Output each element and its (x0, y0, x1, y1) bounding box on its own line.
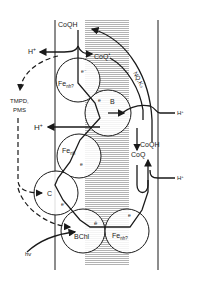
label-tmpd: TMPD, (10, 98, 29, 104)
label-coq-right: CoQ (131, 151, 146, 159)
h-plus-right-lower-path (150, 170, 175, 178)
electron-transport-diagram: CoQH CoQ• H+ TMPD, PMS H+ NQ,K₃ H+ CoQH … (0, 0, 197, 282)
label-b: B (110, 98, 115, 105)
label-coqh-top: CoQH (58, 21, 77, 29)
label-e-bottom: e (128, 212, 131, 218)
coq-u-loop (137, 160, 148, 193)
label-bchl: BChl (74, 233, 90, 240)
label-h-plus-mid-left: H+ (34, 122, 43, 132)
fe-nh-bottom-circle (105, 209, 149, 253)
h-plus-top-left-arrow (40, 46, 78, 52)
label-h-plus-top-left: H+ (28, 46, 36, 55)
label-e-mid: e (80, 161, 83, 167)
bchl-circle (61, 209, 105, 253)
label-c: C (47, 190, 52, 197)
tmpd-dashed-arrow (20, 56, 58, 90)
label-e-c: e⁻ (61, 201, 67, 207)
label-h-plus-right-lower: H+ (177, 174, 184, 181)
label-e-top: e⁻ (81, 68, 87, 74)
label-pms: PMS (13, 107, 26, 113)
label-coq-minus: CoQ• (94, 51, 110, 61)
label-e-b: e (98, 97, 101, 103)
label-h-plus-right-upper: H+ (177, 109, 184, 116)
label-hv: hv (25, 251, 31, 257)
label-coqh-right: CoQH (140, 141, 159, 149)
